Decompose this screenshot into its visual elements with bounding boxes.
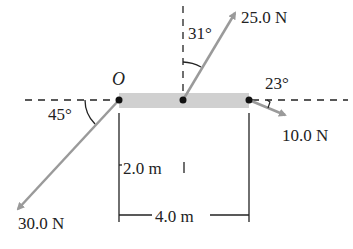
dimension-label-2m: 2.0 m — [123, 160, 162, 177]
angle-label-45: 45° — [48, 106, 72, 123]
angle-arc-31 — [183, 62, 201, 67]
angle-label-23: 23° — [265, 75, 289, 92]
point-middle — [180, 97, 187, 104]
force-arrow-10N — [249, 100, 285, 115]
origin-label: O — [112, 70, 125, 88]
point-O — [116, 97, 123, 104]
dimension-label-4m: 4.0 m — [155, 208, 194, 225]
force-label-10N: 10.0 N — [282, 127, 328, 144]
angle-arc-45 — [85, 100, 95, 124]
force-label-30N: 30.0 N — [18, 215, 64, 232]
angle-label-31: 31° — [188, 25, 212, 42]
force-label-25N: 25.0 N — [241, 9, 287, 26]
point-right — [246, 97, 253, 104]
